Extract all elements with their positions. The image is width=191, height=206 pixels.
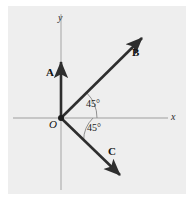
origin-point bbox=[58, 115, 64, 121]
x-axis-label: x bbox=[171, 112, 175, 122]
vector-a-label: A bbox=[46, 67, 54, 78]
angle-label-lower: 45° bbox=[87, 123, 101, 133]
vector-c-label: C bbox=[108, 146, 116, 157]
angle-label-upper: 45° bbox=[86, 99, 100, 109]
y-axis-label: y bbox=[58, 13, 62, 23]
origin-label: O bbox=[49, 119, 57, 130]
vector-b-label: B bbox=[132, 47, 139, 58]
vector-diagram-figure: y x O A B C 45° 45° bbox=[0, 0, 191, 206]
vector-b-shaft bbox=[61, 38, 142, 118]
